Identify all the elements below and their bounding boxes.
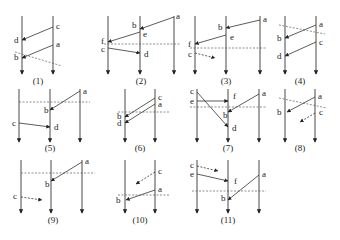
event-label: a xyxy=(319,19,323,29)
event-label: c xyxy=(190,86,194,96)
diagram-caption: (9) xyxy=(48,215,59,225)
diagram-caption: (1) xyxy=(33,76,44,86)
message-arrow xyxy=(21,197,42,200)
event-label: c xyxy=(319,37,323,47)
message-arrow xyxy=(51,162,82,181)
event-label: d xyxy=(277,51,282,61)
message-arrow xyxy=(50,91,80,110)
event-label: a xyxy=(263,14,267,24)
event-label: b xyxy=(218,22,223,32)
event-label: b xyxy=(132,20,137,30)
event-label: f xyxy=(234,176,237,186)
diagram-11: cefab(11) xyxy=(190,160,266,225)
event-label: a xyxy=(318,91,322,101)
event-label: a xyxy=(176,11,180,21)
event-label: b xyxy=(277,33,282,43)
message-arrow xyxy=(140,17,174,29)
message-arrow xyxy=(108,32,140,42)
event-label: a xyxy=(85,156,89,166)
event-label: a xyxy=(83,86,87,96)
diagram-caption: (2) xyxy=(136,76,147,86)
diagram-caption: (8) xyxy=(295,143,306,153)
event-label: a xyxy=(158,99,162,109)
message-arrow xyxy=(22,45,53,58)
event-label: a xyxy=(262,88,266,98)
message-arrow xyxy=(19,123,50,127)
event-label: d xyxy=(117,118,122,128)
diagram-7: cefabd(7) xyxy=(190,86,266,153)
event-label: e xyxy=(190,96,194,106)
diagram-3: abefc(3) xyxy=(188,14,267,86)
diagram-caption: (7) xyxy=(223,143,234,153)
diagram-caption: (11) xyxy=(221,215,236,225)
event-label: b xyxy=(45,179,50,189)
event-label: a xyxy=(262,169,266,179)
event-label: c xyxy=(56,21,60,31)
diagram-5: abcd(5) xyxy=(12,86,90,153)
message-arrow xyxy=(197,166,218,171)
event-label: c xyxy=(12,118,16,128)
space-time-diagrams: cadb(1)abefcd(2)abefc(3)acbd(4)abcd(5)ca… xyxy=(0,0,340,240)
event-label: c xyxy=(101,44,105,54)
event-label: b xyxy=(14,52,19,62)
message-arrow xyxy=(22,27,53,40)
event-label: d xyxy=(14,35,19,45)
diagram-caption: (5) xyxy=(45,143,56,153)
event-label: e xyxy=(190,169,194,179)
message-arrow xyxy=(228,175,259,200)
diagram-4: acbd(4) xyxy=(277,16,325,86)
event-label: f xyxy=(188,39,191,49)
message-arrow xyxy=(136,172,155,184)
event-label: c xyxy=(158,166,162,176)
message-arrow xyxy=(195,35,226,44)
event-label: d xyxy=(54,122,59,132)
message-arrow xyxy=(197,174,228,181)
message-arrow xyxy=(195,53,215,58)
event-label: b xyxy=(116,195,121,205)
event-label: b xyxy=(223,110,228,120)
event-label: c xyxy=(319,107,323,117)
diagram-caption: (10) xyxy=(133,215,148,225)
diagram-grid: cadb(1)abefcd(2)abefc(3)acbd(4)abcd(5)ca… xyxy=(12,11,327,225)
diagram-2: abefcd(2) xyxy=(101,11,180,86)
message-arrow xyxy=(125,104,155,123)
message-arrow xyxy=(285,42,316,56)
event-label: b xyxy=(277,107,282,117)
event-label: d xyxy=(144,49,149,59)
event-label: a xyxy=(56,39,60,49)
event-label: b xyxy=(221,193,226,203)
event-label: a xyxy=(158,184,162,194)
diagram-caption: (3) xyxy=(221,76,232,86)
message-arrow xyxy=(125,98,155,117)
diagram-9: abc(9) xyxy=(13,156,95,225)
event-label: f xyxy=(233,91,236,101)
event-label: c xyxy=(188,49,192,59)
diagram-1: cadb(1) xyxy=(14,16,62,86)
event-label: b xyxy=(44,105,49,115)
event-label: c xyxy=(13,191,17,201)
diagram-caption: (6) xyxy=(135,143,146,153)
diagram-8: abc(8) xyxy=(277,89,327,153)
diagram-10: cab(10) xyxy=(116,160,170,225)
diagram-caption: (4) xyxy=(295,76,306,86)
message-arrow xyxy=(226,20,260,28)
event-label: e xyxy=(230,32,234,42)
event-label: d xyxy=(232,123,237,133)
diagram-6: cabd(6) xyxy=(117,89,170,153)
message-arrow xyxy=(300,113,315,122)
event-label: e xyxy=(143,29,147,39)
message-arrow xyxy=(108,48,140,53)
